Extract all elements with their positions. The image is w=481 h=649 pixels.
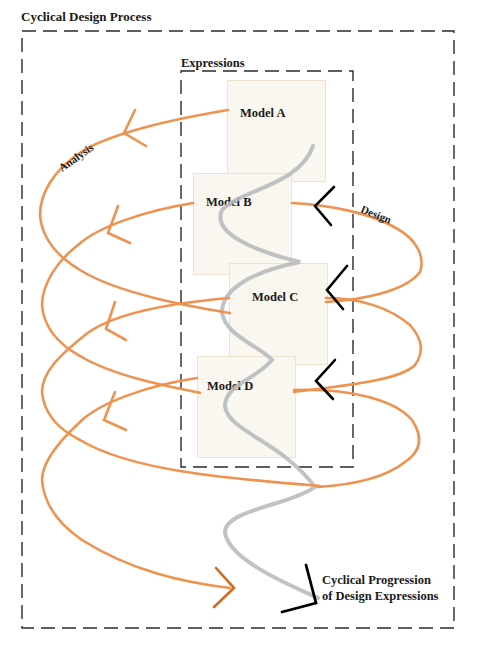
progression-helix <box>220 146 318 598</box>
caption-line-2: of Design Expressions <box>322 588 438 604</box>
analysis-arrowheads <box>104 110 146 430</box>
design-analysis-cycle <box>40 110 422 588</box>
design-arrowheads <box>315 187 347 399</box>
design-label: Design <box>359 203 393 226</box>
cycle-overlay: Analysis Design <box>0 0 481 649</box>
caption-line-1: Cyclical Progression <box>322 572 438 588</box>
progression-caption: Cyclical Progression of Design Expressio… <box>322 572 438 604</box>
analysis-label: Analysis <box>56 141 96 174</box>
